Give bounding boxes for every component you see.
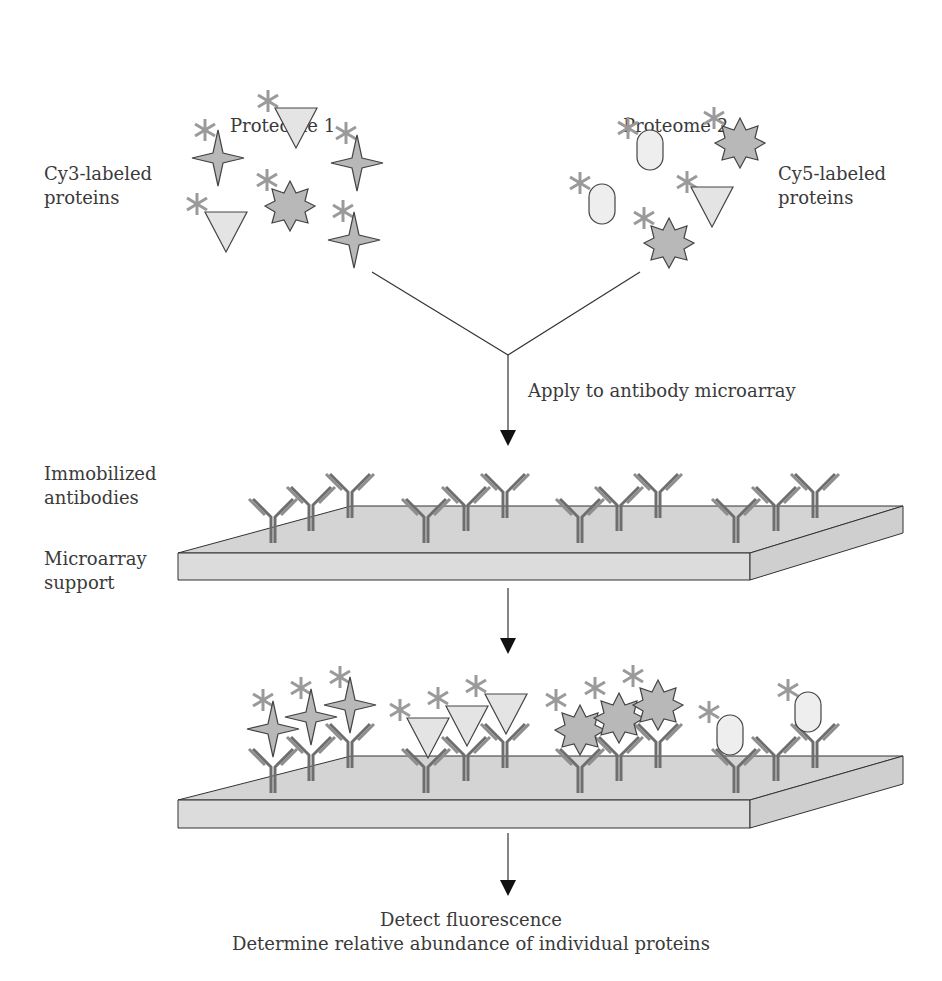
proteome-2-proteins — [570, 107, 765, 268]
proteome-1-proteins — [187, 90, 383, 268]
bound-proteins — [247, 665, 821, 758]
diagram-graphics — [0, 0, 942, 981]
